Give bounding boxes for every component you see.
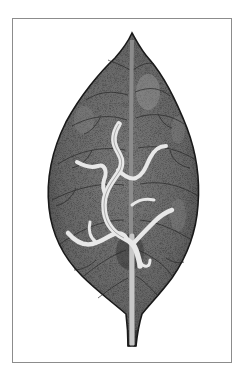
leaf-blade (40, 30, 210, 350)
leaf-illustration (0, 0, 245, 375)
